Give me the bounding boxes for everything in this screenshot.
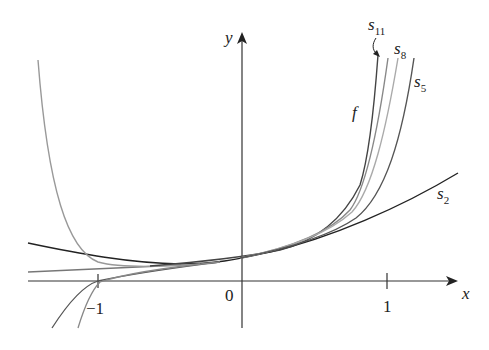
origin-label: 0 (225, 287, 234, 304)
curve-s2 (28, 173, 458, 264)
tick-neg1-label: −1 (86, 300, 104, 317)
tick-1-label: 1 (383, 298, 392, 315)
curve-s8 (240, 58, 398, 258)
s2-base: s (437, 184, 444, 203)
s11-sub: 11 (375, 25, 386, 37)
y-axis-label: y (225, 29, 233, 46)
s8-base: s (394, 39, 401, 58)
s5-base: s (414, 72, 421, 91)
chart: y x 0 −1 1 f s11 s8 s5 s2 (0, 0, 489, 350)
x-axis-label: x (462, 285, 470, 302)
curve-s5-left (52, 262, 220, 328)
s8-label: s8 (394, 40, 406, 57)
plot-area (0, 0, 489, 350)
s11-label: s11 (368, 16, 385, 33)
curve-s8-left (38, 60, 200, 266)
s2-sub: 2 (444, 194, 450, 206)
s2-label: s2 (437, 185, 449, 202)
s5-sub: 5 (421, 82, 427, 94)
s5-label: s5 (414, 73, 426, 90)
s8-sub: 8 (401, 49, 407, 61)
curve-f (150, 55, 378, 266)
f-label: f (352, 104, 357, 121)
s11-base: s (368, 15, 375, 34)
